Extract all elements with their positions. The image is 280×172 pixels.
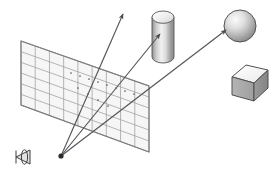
sphere-body: [224, 10, 256, 42]
sphere-object: [224, 10, 256, 42]
cube-object: [232, 65, 268, 101]
cylinder-top-face: [152, 11, 174, 23]
viewpoint-group: [16, 150, 64, 164]
eye-viewpoint-icon: [16, 150, 30, 164]
figure-canvas: [0, 0, 280, 172]
image-plane: [21, 41, 149, 152]
cylinder-object: [152, 11, 174, 63]
ray-casting-figure: Ray casting through an image plane image…: [0, 0, 280, 172]
viewpoint-origin-dot: [58, 153, 63, 158]
image-plane-surface: [21, 41, 149, 152]
